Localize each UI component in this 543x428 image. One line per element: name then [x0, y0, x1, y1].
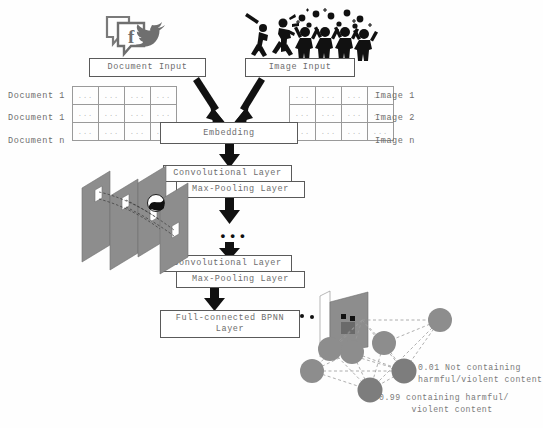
pool-layer-1-box[interactable]: Max-Pooling Layer	[176, 181, 305, 198]
cell: ...	[316, 123, 342, 141]
embedding-box[interactable]: Embedding	[160, 122, 298, 144]
document-input-label: Document Input	[108, 62, 188, 73]
cell: ...	[99, 105, 125, 123]
cell: ...	[290, 87, 316, 105]
table-row: ... ... ... ...	[73, 87, 177, 105]
output-label-positive: 0.99 containing harmful/ violent content	[379, 392, 509, 416]
pool-layer-2-box[interactable]: Max-Pooling Layer	[176, 271, 305, 288]
pool-layer-2-label: Max-Pooling Layer	[192, 274, 289, 285]
image-input-box[interactable]: Image Input	[245, 58, 355, 77]
output-network-nodes	[300, 308, 452, 403]
document-row-label-3: Document n	[8, 136, 65, 146]
layer-repeat-ellipsis: •••	[219, 230, 248, 243]
feature-map-cells	[95, 186, 179, 238]
fully-connected-bpnn-label: Full-connected BPNN Layer	[176, 313, 284, 334]
image-input-label: Image Input	[269, 62, 332, 73]
cell: ...	[290, 105, 316, 123]
output-label-negative: 0.01 Not containing harmful/violent cont…	[418, 362, 543, 386]
violence-riot-icon	[245, 8, 378, 61]
conv-layer-2-box[interactable]: Convolutional Layer	[163, 255, 292, 272]
image-row-label-3: Image n	[375, 136, 415, 146]
cell: ...	[151, 87, 177, 105]
cell: ...	[342, 87, 368, 105]
arrow-image-to-embedding	[233, 79, 262, 124]
embedding-label: Embedding	[203, 128, 254, 139]
cell: ...	[342, 123, 368, 141]
facebook-twitter-icon: f	[107, 17, 165, 54]
cell: ...	[316, 105, 342, 123]
cell: ...	[73, 123, 99, 141]
arrow-document-to-embedding	[196, 79, 226, 124]
cell: ...	[125, 105, 151, 123]
feature-map-connections	[99, 192, 174, 236]
cell: ...	[99, 87, 125, 105]
table-row: ... ... ... ...	[73, 105, 177, 123]
cell: ...	[316, 87, 342, 105]
cell: ...	[73, 87, 99, 105]
cell: ...	[151, 105, 177, 123]
cell: ...	[125, 123, 151, 141]
feature-map-highlight-marker	[148, 195, 165, 212]
pool-layer-1-label: Max-Pooling Layer	[192, 184, 289, 195]
output-feature-plane	[300, 291, 368, 357]
output-node-negative	[392, 359, 417, 384]
image-row-label-1: Image 1	[375, 91, 415, 101]
cell: ...	[73, 105, 99, 123]
cell: ...	[99, 123, 125, 141]
arrow-pool1-to-ellipsis	[219, 198, 240, 224]
image-row-label-2: Image 2	[375, 113, 415, 123]
document-row-label-2: Document 1	[8, 113, 65, 123]
arrow-pool2-to-fc	[204, 288, 225, 311]
document-row-label-1: Document 1	[8, 91, 65, 101]
cell: ...	[342, 105, 368, 123]
conv-layer-1-box[interactable]: Convolutional Layer	[163, 165, 292, 182]
conv-layer-1-label: Convolutional Layer	[173, 168, 281, 179]
document-input-box[interactable]: Document Input	[89, 58, 206, 77]
conv-layer-2-label: Convolutional Layer	[173, 258, 281, 269]
cell: ...	[125, 87, 151, 105]
svg-text:f: f	[128, 26, 135, 47]
fully-connected-bpnn-box[interactable]: Full-connected BPNN Layer	[160, 310, 300, 338]
